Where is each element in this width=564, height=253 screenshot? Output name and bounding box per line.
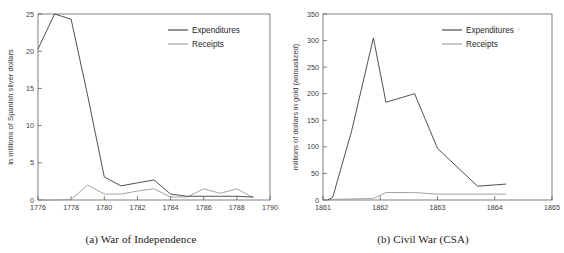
chart-a-xtick-1778: 1778 xyxy=(63,203,79,212)
chart-b-series-receipts xyxy=(328,193,507,200)
panel-civil-war-csa: 0 50 100 150 200 250 300 350 1861 1862 1… xyxy=(282,0,564,253)
chart-b-y-ticks: 0 50 100 150 200 250 300 350 xyxy=(307,10,327,205)
chart-a-xtick-1786: 1786 xyxy=(196,203,212,212)
chart-b-legend-label-expenditures: Expenditures xyxy=(466,26,514,35)
chart-a-ylabel: in millions of Spanish silver dollars xyxy=(6,49,15,165)
chart-a-xtick-1776: 1776 xyxy=(30,203,46,212)
chart-a-canvas: 0 5 10 15 20 25 1776 1778 1780 178 xyxy=(0,0,282,253)
chart-b-xtick-1863: 1863 xyxy=(430,203,446,212)
chart-b-ytick-50: 50 xyxy=(311,169,319,178)
chart-a-legend-label-receipts: Receipts xyxy=(192,40,224,49)
chart-b-xtick-1861: 1861 xyxy=(315,203,331,212)
chart-b-ytick-350: 350 xyxy=(307,10,319,19)
chart-b-xtick-1864: 1864 xyxy=(487,203,503,212)
chart-a-xtick-1788: 1788 xyxy=(229,203,245,212)
chart-b-canvas: 0 50 100 150 200 250 300 350 1861 1862 1… xyxy=(282,0,564,253)
chart-a-ytick-10: 10 xyxy=(26,121,34,130)
chart-b-ytick-150: 150 xyxy=(307,116,319,125)
chart-a-ytick-25: 25 xyxy=(26,10,34,19)
chart-a-axes xyxy=(38,14,270,200)
chart-b-caption: (b) Civil War (CSA) xyxy=(282,233,564,245)
chart-a-legend-label-expenditures: Expenditures xyxy=(192,26,240,35)
chart-b-legend: Expenditures Receipts xyxy=(442,26,514,49)
chart-b-ylabel: millions of dollars in gold (annualized) xyxy=(291,43,300,170)
chart-a-x-ticks: 1776 1778 1780 1782 1784 1786 1788 1790 xyxy=(30,196,278,212)
chart-a-xtick-1780: 1780 xyxy=(96,203,112,212)
chart-a-caption: (a) War of Independence xyxy=(0,233,282,245)
chart-a-y-ticks: 0 5 10 15 20 25 xyxy=(26,10,42,205)
chart-a-xtick-1782: 1782 xyxy=(129,203,145,212)
chart-b-xtick-1862: 1862 xyxy=(372,203,388,212)
chart-b-x-ticks: 1861 1862 1863 1864 1865 xyxy=(315,196,560,212)
chart-a-legend: Expenditures Receipts xyxy=(168,26,240,49)
chart-b-ytick-100: 100 xyxy=(307,142,319,151)
chart-a-xtick-1784: 1784 xyxy=(163,203,179,212)
chart-a-ytick-15: 15 xyxy=(26,84,34,93)
chart-b-ytick-300: 300 xyxy=(307,36,319,45)
chart-b-ytick-200: 200 xyxy=(307,89,319,98)
chart-a-xtick-1790: 1790 xyxy=(262,203,278,212)
chart-b-ytick-250: 250 xyxy=(307,63,319,72)
figure-container: 0 5 10 15 20 25 1776 1778 1780 178 xyxy=(0,0,564,253)
chart-b-series-expenditures xyxy=(328,38,507,200)
chart-b-legend-label-receipts: Receipts xyxy=(466,40,498,49)
chart-a-ytick-5: 5 xyxy=(30,158,34,167)
chart-b-xtick-1865: 1865 xyxy=(544,203,560,212)
panel-war-of-independence: 0 5 10 15 20 25 1776 1778 1780 178 xyxy=(0,0,282,253)
chart-a-ytick-20: 20 xyxy=(26,47,34,56)
chart-a-series-receipts xyxy=(38,185,253,200)
